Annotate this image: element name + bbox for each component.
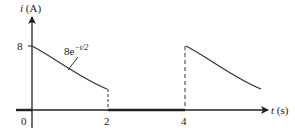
annotation-leader (68, 57, 78, 70)
y-axis-label: i (A) (20, 2, 41, 15)
x-axis-label: t (s) (271, 104, 289, 117)
annotation-formula: 8e−t/2 (64, 43, 88, 57)
y-tick-label-8: 8 (17, 40, 23, 52)
chart: i (A) 8 0 2 4 t (s) 8e−t/2 (0, 0, 295, 133)
x-tick-label-0: 0 (21, 115, 27, 127)
x-tick-label-2: 2 (104, 115, 110, 127)
x-tick-label-4: 4 (181, 115, 187, 127)
decay-curve-2 (186, 46, 261, 89)
